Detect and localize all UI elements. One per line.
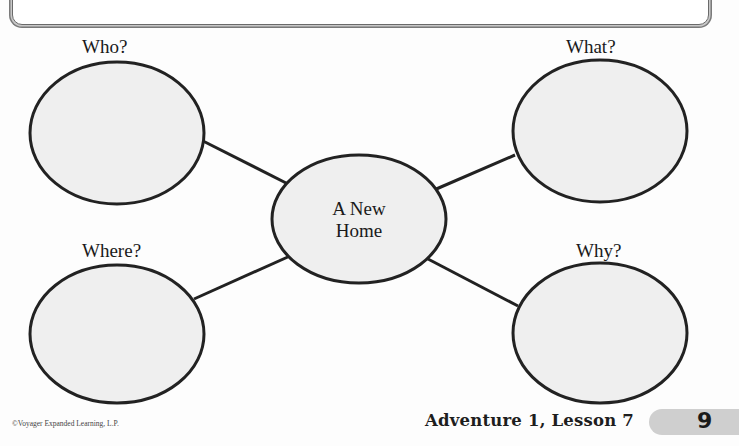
what-ellipse[interactable] xyxy=(513,60,687,202)
why-label: Why? xyxy=(576,240,621,262)
lesson-title: Adventure 1, Lesson 7 xyxy=(425,411,634,430)
connector-who xyxy=(203,141,290,185)
who-label: Who? xyxy=(82,36,127,58)
where-label: Where? xyxy=(82,240,141,262)
connector-what xyxy=(434,155,515,190)
who-ellipse[interactable] xyxy=(30,62,204,204)
connector-why xyxy=(428,259,518,306)
what-label: What? xyxy=(566,36,616,58)
center-topic: A New Home xyxy=(299,198,419,242)
copyright-notice: ©Voyager Expanded Learning, L.P. xyxy=(12,419,119,428)
connector-where xyxy=(194,256,290,299)
page-number-tab xyxy=(649,409,739,435)
center-topic-line1: A New xyxy=(299,198,419,220)
page-number: 9 xyxy=(697,408,712,433)
where-ellipse[interactable] xyxy=(30,265,204,403)
why-ellipse[interactable] xyxy=(513,263,687,403)
center-topic-line2: Home xyxy=(299,220,419,242)
